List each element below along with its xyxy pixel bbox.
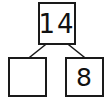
number-bond-diagram: 14 8 — [0, 0, 109, 102]
part-box-right[interactable]: 8 — [65, 57, 104, 97]
part-box-right-value: 8 — [76, 65, 93, 90]
part-box-left[interactable] — [8, 57, 47, 97]
whole-box-value: 14 — [38, 11, 75, 37]
whole-box[interactable]: 14 — [38, 2, 76, 45]
connector-line-left — [30, 45, 45, 57]
connector-line-right — [69, 45, 84, 57]
